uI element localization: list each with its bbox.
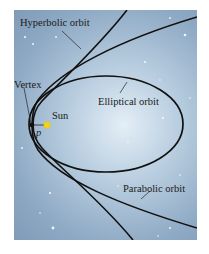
sun-label: Sun (52, 111, 68, 122)
vertex-leader-line (24, 88, 31, 124)
vertex-label: Vertex (14, 80, 41, 91)
parabolic-orbit-label: Parabolic orbit (123, 184, 185, 195)
elliptical-leader-line (120, 82, 127, 93)
parabolic-orbit-curve (32, 17, 197, 228)
hyperbolic-orbit-label: Hyperbolic orbit (20, 18, 90, 29)
hyperbolic-leader-line (62, 31, 81, 49)
sun-icon (44, 122, 50, 128)
elliptical-orbit-label: Elliptical orbit (98, 97, 159, 108)
orbit-diagram-panel: Hyperbolic orbit Elliptical orbit Parabo… (14, 10, 197, 240)
p-label: p (36, 128, 41, 139)
orbit-curves (14, 10, 197, 240)
vertex-point (30, 123, 35, 128)
